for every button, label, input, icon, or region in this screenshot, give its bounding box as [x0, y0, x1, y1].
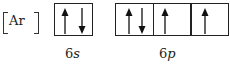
spin-up-arrow-icon: [124, 8, 134, 34]
spin-up-arrow-icon: [60, 8, 70, 34]
orbital-box-6p-2: [153, 3, 192, 36]
spin-up-arrow-icon: [160, 8, 170, 34]
noble-gas-core: Ar: [9, 13, 25, 28]
spin-down-arrow-icon: [77, 8, 87, 34]
orbital-box-6p-3: [190, 3, 229, 36]
orbital-box-6s: [54, 3, 93, 36]
spin-up-arrow-icon: [200, 8, 210, 34]
orbital-label-6s: 6s: [65, 46, 80, 61]
orbital-box-6p-1: [115, 3, 154, 36]
left-bracket: [3, 12, 8, 34]
orbital-label-6p: 6p: [159, 46, 176, 61]
right-bracket: [34, 12, 39, 34]
spin-down-arrow-icon: [137, 8, 147, 34]
